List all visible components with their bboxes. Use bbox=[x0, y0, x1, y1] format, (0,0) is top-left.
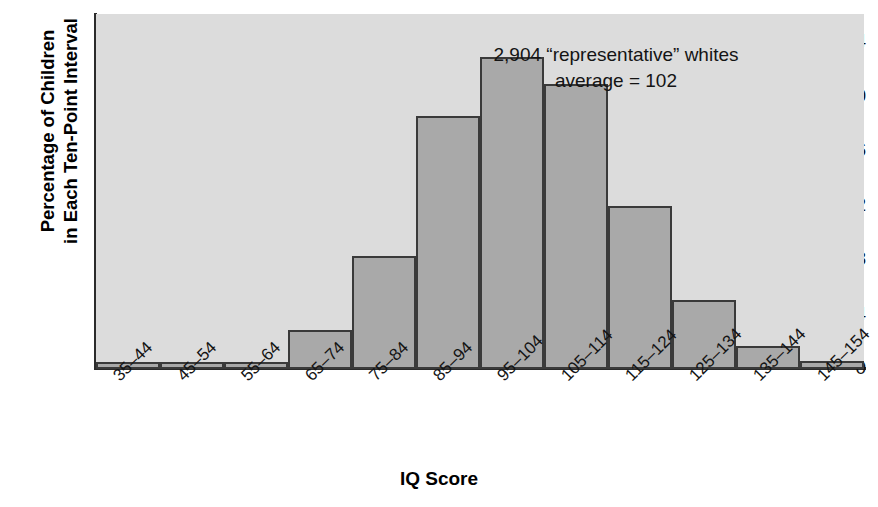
bar bbox=[480, 57, 544, 369]
bar bbox=[544, 84, 608, 369]
y-axis-title: Percentage of Children in Each Ten-Point… bbox=[36, 0, 82, 306]
plot-area: 2,904 “representative” whites average = … bbox=[96, 14, 864, 369]
chart-annotation: 2,904 “representative” whites average = … bbox=[426, 42, 806, 94]
x-axis-title: IQ Score bbox=[0, 468, 878, 490]
y-axis-title-line-1: Percentage of Children bbox=[36, 0, 59, 306]
y-axis-title-line-2: in Each Ten-Point Interval bbox=[59, 0, 82, 306]
bar bbox=[416, 116, 480, 369]
annotation-line-2: average = 102 bbox=[426, 68, 806, 94]
annotation-line-1: 2,904 “representative” whites bbox=[426, 42, 806, 68]
chart-figure: Percentage of Children in Each Ten-Point… bbox=[0, 0, 878, 507]
